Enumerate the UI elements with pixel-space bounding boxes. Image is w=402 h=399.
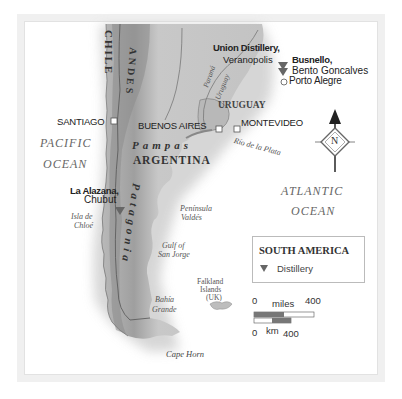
- falkland-islands: [210, 302, 232, 310]
- buenos-aires-marker: [216, 126, 222, 132]
- scale-miles-label: miles: [272, 299, 294, 309]
- label-peninsula-valdes-1: Península: [180, 205, 212, 213]
- label-santiago: SANTIAGO: [57, 117, 105, 127]
- label-montevideo: MONTEVIDEO: [241, 118, 303, 128]
- label-pacific-ocean-2: OCEAN: [43, 158, 87, 170]
- porto-alegre-marker: [281, 79, 287, 85]
- montevideo-marker: [234, 126, 240, 132]
- label-uruguay: URUGUAY: [218, 101, 266, 111]
- scale-miles-start: 0: [252, 296, 257, 306]
- busnello-icon: [278, 68, 288, 76]
- label-busnello: Busnello,: [292, 55, 332, 65]
- label-union-distillery: Union Distillery,: [213, 43, 280, 53]
- scale-miles-end: 400: [305, 296, 321, 306]
- label-bahia-grande-2: Grande: [152, 306, 176, 314]
- scale-km-start: 0: [252, 328, 257, 338]
- label-falkland-3: (UK): [206, 294, 222, 302]
- label-bento-goncalves: Bento Goncalves: [292, 66, 368, 76]
- legend-box: SOUTH AMERICA Distillery: [252, 236, 365, 283]
- map-canvas: [0, 0, 402, 399]
- label-cape-horn: Cape Horn: [166, 350, 204, 359]
- legend-item-distillery: Distillery: [277, 264, 313, 274]
- distillery-legend-icon: [260, 265, 268, 272]
- label-porto-alegre: Porto Alegre: [289, 76, 342, 86]
- label-peninsula-valdes-2: Valdés: [181, 214, 202, 222]
- label-argentina: ARGENTINA: [133, 155, 211, 167]
- compass-n-label: N: [331, 136, 338, 146]
- scale-km-label: km: [266, 326, 279, 336]
- label-isla-de-chloe-1: Isla de: [71, 213, 93, 221]
- scale-km-end: 400: [283, 329, 299, 339]
- label-gulf-of-san-jorge-2: San Jorge: [158, 251, 190, 259]
- santiago-marker: [111, 118, 117, 124]
- label-gulf-of-san-jorge-1: Gulf of: [162, 242, 184, 250]
- label-atlantic-ocean-2: OCEAN: [291, 205, 335, 217]
- scale-bar-km: [254, 318, 291, 323]
- label-atlantic-ocean-1: ATLANTIC: [281, 185, 343, 197]
- label-bahia-grande-1: Bahía: [155, 296, 174, 304]
- label-isla-de-chloe-2: Chloé: [74, 222, 93, 230]
- legend-title: SOUTH AMERICA: [259, 246, 349, 257]
- label-pacific-ocean-1: PACIFIC: [40, 137, 91, 149]
- label-chile: CHILE: [103, 30, 114, 75]
- label-veranopolis: Veranopolis: [223, 55, 273, 65]
- label-buenos-aires: BUENOS AIRES: [138, 121, 206, 131]
- scale-bar-miles: [254, 312, 314, 317]
- label-pampas: Pampas: [132, 140, 192, 151]
- label-chubut: Chubut: [84, 195, 116, 205]
